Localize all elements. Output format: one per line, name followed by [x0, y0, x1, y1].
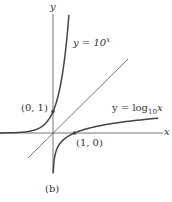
log-label-prefix: y = log	[112, 102, 148, 113]
figure-caption: (b)	[45, 184, 59, 194]
exp-label: y = 10x	[73, 37, 110, 48]
log-label-suffix: x	[157, 102, 163, 113]
point-1-0	[73, 131, 77, 135]
y-axis-label: y	[50, 2, 56, 12]
point-0-1-label: (0, 1)	[21, 103, 48, 113]
log-label-sub: 10	[148, 108, 157, 116]
exp-label-sup: x	[106, 36, 110, 44]
log-label: y = log10x	[112, 103, 163, 116]
log-curve	[53, 118, 158, 173]
point-1-0-label: (1, 0)	[76, 138, 103, 148]
point-0-1	[51, 110, 55, 114]
x-axis-label: x	[164, 127, 170, 137]
exp-curve	[0, 15, 69, 133]
exp-label-prefix: y = 10	[73, 37, 106, 48]
chart-canvas	[0, 0, 172, 202]
